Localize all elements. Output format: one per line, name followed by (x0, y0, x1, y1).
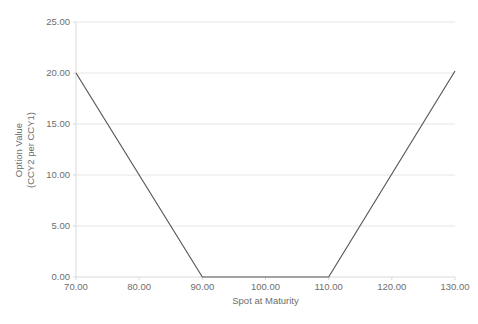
x-tick-label-90: 90.00 (172, 281, 232, 293)
x-tick-label-80: 80.00 (109, 281, 169, 293)
y-tick-label-25: 25.00 (18, 17, 70, 27)
y-tick-label-20: 20.00 (18, 68, 70, 78)
x-tick-label-130: 130.00 (425, 281, 478, 293)
x-tick-label-70: 70.00 (46, 281, 106, 293)
option-value-chart: Option Value (CCY2 per CCY1) 0.005.0010.… (0, 0, 478, 324)
y-axis-tick-labels: 0.005.0010.0015.0020.0025.00 (14, 22, 70, 277)
series-line-0 (76, 71, 455, 277)
series-layer (76, 22, 455, 277)
x-tick-label-100: 100.00 (236, 281, 296, 293)
x-tick-label-120: 120.00 (362, 281, 422, 293)
y-tick-label-15: 15.00 (18, 119, 70, 129)
x-axis-title: Spot at Maturity (76, 295, 455, 307)
y-tick-label-10: 10.00 (18, 170, 70, 180)
x-tick-label-110: 110.00 (299, 281, 359, 293)
y-tick-label-5: 5.00 (18, 221, 70, 231)
bottom-caption-strip (0, 316, 478, 324)
plot-area (76, 22, 455, 277)
x-axis-tick-labels: 70.0080.0090.00100.00110.00120.00130.00 (76, 281, 455, 295)
